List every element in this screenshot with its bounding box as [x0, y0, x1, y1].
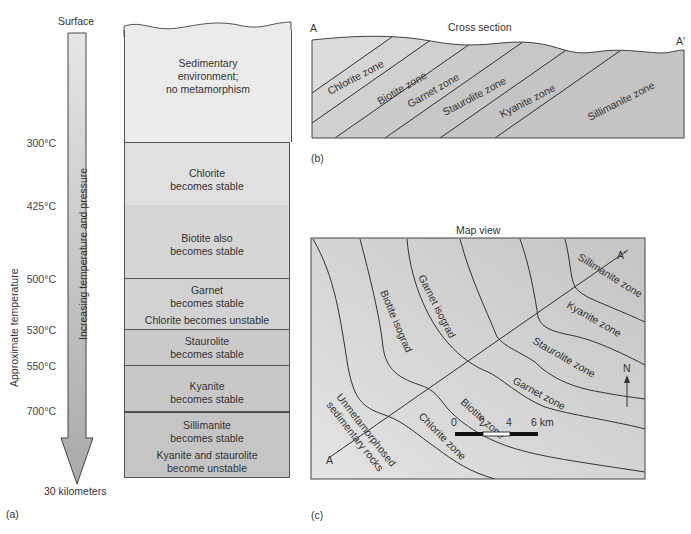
zone-text-line: Kyanite and staurolite [125, 449, 289, 462]
zone-biotite: Biotite also becomes stable [124, 205, 290, 279]
arrow-label: Increasing temperature and pressure [77, 168, 89, 340]
map-end-a-prime: A' [617, 249, 626, 261]
bottom-depth-label: 30 kilometers [44, 485, 106, 497]
map-end-a: A [326, 454, 333, 466]
zone-text-line: Sedimentary [125, 57, 291, 70]
panel-a-label: (a) [6, 508, 19, 520]
zone-chlorite: Chlorite becomes stable [124, 142, 290, 206]
zone-staurolite: Staurolite becomes stable [124, 330, 290, 366]
scale-tick-0: 0 [451, 416, 457, 428]
cross-section-diagram: Chlorite zone Biotite zone Garnet zone S… [310, 30, 690, 140]
scale-tick-6: 6 km [531, 416, 554, 428]
map-view-diagram: A' A Biotite isograd Garnet isograd Sill… [310, 237, 650, 482]
panel-c-label: (c) [311, 509, 323, 521]
zone-text-line: environment; [125, 70, 291, 83]
panel-b-label: (b) [311, 152, 324, 164]
zone-text-line: becomes stable [125, 245, 289, 258]
zone-text-line: Staurolite [125, 335, 289, 348]
zone-text-line: becomes stable [125, 180, 289, 193]
zone-text-line: becomes stable [125, 297, 289, 310]
surface-label: Surface [58, 15, 94, 27]
temp-530: 530°C [16, 324, 56, 336]
zone-text-line: Garnet [125, 284, 289, 297]
temp-300: 300°C [16, 137, 56, 149]
zone-text-line: Chlorite [125, 167, 289, 180]
temp-425: 425°C [16, 200, 56, 212]
scale-tick-4: 4 [506, 416, 512, 428]
temp-700: 700°C [16, 405, 56, 417]
temp-550: 550°C [16, 360, 56, 372]
zone-text-line: no metamorphism [125, 83, 291, 96]
zone-text-line: Biotite also [125, 232, 289, 245]
map-view-title: Map view [456, 224, 500, 236]
zone-kyanite: Kyanite becomes stable [124, 366, 290, 412]
zone-sillimanite: Sillimanite becomes stable Kyanite and s… [124, 412, 290, 478]
zone-garnet: Garnet becomes stable Chlorite becomes u… [124, 279, 290, 330]
scale-tick-2: 2 [479, 416, 485, 428]
zone-text-line: becomes stable [125, 348, 289, 361]
north-label: N [623, 362, 631, 374]
zone-text-line: Kyanite [125, 380, 289, 393]
zone-text-line: Sillimanite [125, 419, 289, 432]
zone-sedimentary: Sedimentary environment; no metamorphism [124, 30, 292, 142]
temp-500: 500°C [16, 273, 56, 285]
zone-text-line: becomes stable [125, 393, 289, 406]
zone-text-line: Chlorite becomes unstable [125, 314, 289, 327]
zone-text-line: become unstable [125, 462, 289, 475]
zone-text-line: becomes stable [125, 432, 289, 445]
